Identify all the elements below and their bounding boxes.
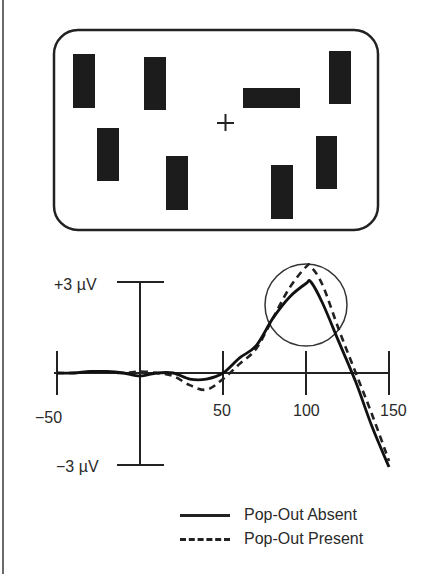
stimulus-bar-vertical (166, 156, 188, 210)
stimulus-bar-vertical (97, 128, 119, 181)
legend-item-present: Pop-Out Present (180, 527, 363, 551)
stimulus-display (54, 30, 378, 230)
figure: +3 µV −3 µV −50 50 100 150 (0, 0, 442, 574)
x-label-150: 150 (380, 402, 407, 419)
solid-line-icon (180, 514, 230, 517)
legend-label-present: Pop-Out Present (244, 527, 363, 551)
stimulus-bar-vertical (144, 57, 166, 110)
stimulus-bar-vertical (271, 165, 293, 219)
x-label-50: 50 (213, 402, 231, 419)
stimulus-bars (73, 51, 351, 219)
legend-item-absent: Pop-Out Absent (180, 503, 363, 527)
legend-label-absent: Pop-Out Absent (244, 503, 357, 527)
dashed-line-icon (180, 538, 230, 541)
stimulus-bar-vertical (316, 136, 337, 189)
fixation-cross (217, 114, 234, 131)
x-label-m50: −50 (35, 409, 62, 426)
y-label-top: +3 µV (54, 276, 97, 293)
x-label-100: 100 (293, 402, 320, 419)
stimulus-bar-vertical (329, 51, 351, 104)
legend: Pop-Out Absent Pop-Out Present (180, 503, 363, 551)
erp-chart: +3 µV −3 µV −50 50 100 150 (35, 264, 407, 475)
stimulus-bar-horizontal (243, 88, 300, 108)
y-label-bottom: −3 µV (56, 458, 99, 475)
stimulus-bar-vertical (73, 54, 95, 108)
